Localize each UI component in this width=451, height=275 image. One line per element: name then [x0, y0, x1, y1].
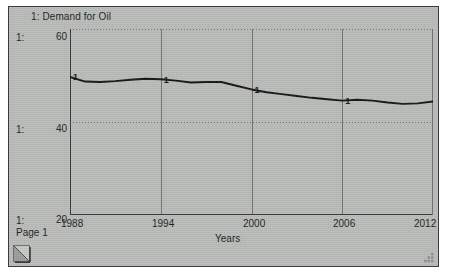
x-tick-label-1994: 1994 [152, 218, 174, 229]
resize-grip-icon[interactable] [423, 252, 435, 263]
x-tick-label-2006: 2006 [333, 218, 355, 229]
line-chart-svg: 1111 [70, 29, 433, 215]
page-fold-icon[interactable] [13, 245, 33, 263]
gutter-scale-label-top: 1: [16, 32, 24, 43]
series-marker-labels-group: 1111 [73, 72, 350, 106]
screenshot-root: 1: Demand for Oil 1: 1: 1: Page 1 60 40 … [0, 0, 451, 275]
series-marker-label: 1 [164, 75, 169, 85]
series-line [70, 77, 433, 104]
legend-entry-demand-for-oil: 1: Demand for Oil [31, 11, 111, 22]
series-marker-label: 1 [73, 72, 78, 82]
x-axis-title: Years [215, 233, 240, 244]
x-tick-label-1988: 1988 [61, 218, 83, 229]
series-marker-label: 1 [345, 96, 350, 106]
plot-area: 1111 [70, 29, 433, 215]
gridlines-group [70, 29, 433, 215]
y-tick-label-60: 60 [41, 31, 67, 42]
x-tick-label-2000: 2000 [243, 218, 265, 229]
gutter-scale-label-middle: 1: [16, 124, 24, 135]
data-series-group [70, 77, 433, 104]
page-label: Page 1 [16, 227, 48, 238]
graph-window: 1: Demand for Oil 1: 1: 1: Page 1 60 40 … [8, 6, 439, 267]
series-marker-label: 1 [255, 85, 260, 95]
y-tick-label-40: 40 [41, 123, 67, 134]
x-tick-label-2012: 2012 [414, 218, 436, 229]
gutter-scale-label-bottom: 1: [16, 215, 24, 226]
